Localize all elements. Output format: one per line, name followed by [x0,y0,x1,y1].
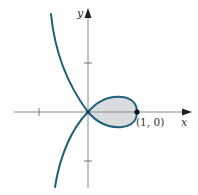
curve-upper-branch [51,14,88,112]
point-label-1-0: (1, 0) [136,117,164,128]
x-axis-label: x [181,117,187,128]
point-1-0 [134,109,139,114]
origin-point [86,110,90,114]
graph-figure: y x (1, 0) [0,0,198,195]
graph-svg [0,0,198,195]
x-axis-arrow-icon [182,109,192,116]
y-axis-label: y [77,8,83,19]
y-axis-arrow-icon [85,8,92,18]
curve-lower-branch [55,112,88,187]
